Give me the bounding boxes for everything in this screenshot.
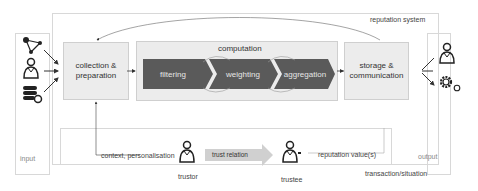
- context-label: context, personalisation: [101, 152, 175, 159]
- user-icon: [24, 59, 38, 79]
- aggregation-label: aggregation: [284, 70, 326, 79]
- feedback-arc-arrow: [97, 18, 380, 41]
- reputation-values-label: reputation value(s): [318, 151, 376, 158]
- trust-relation-label: trust relation: [212, 151, 248, 158]
- input-label: input: [20, 155, 35, 162]
- gears-icon: [441, 77, 460, 91]
- trustor-icon: [180, 142, 194, 163]
- network-graph-icon: [23, 37, 42, 54]
- trustee-label: trustee: [281, 176, 302, 183]
- transaction-label: transaction/situation: [365, 170, 427, 177]
- output-label: output: [418, 153, 437, 160]
- trustor-label: trustor: [178, 173, 198, 180]
- database-gear-icon: [23, 86, 42, 103]
- filtering-label: filtering: [160, 70, 186, 79]
- diagram-graphics: trust relation: [0, 0, 478, 191]
- weighting-label: weighting: [225, 70, 260, 79]
- output-user-icon: [440, 44, 454, 64]
- trustee-icon: [283, 142, 301, 163]
